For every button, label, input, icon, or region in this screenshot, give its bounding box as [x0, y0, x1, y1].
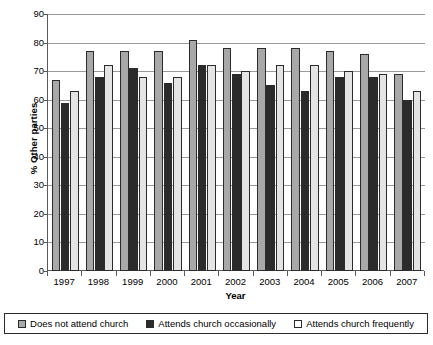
bar — [232, 74, 241, 271]
x-tick-mark — [253, 271, 254, 276]
x-tick-mark — [116, 271, 117, 276]
legend-swatch-icon — [294, 320, 302, 328]
bar — [164, 83, 173, 271]
bar — [70, 91, 79, 271]
bar — [310, 65, 319, 271]
bar — [104, 65, 113, 271]
bar — [266, 85, 275, 271]
bar — [223, 48, 232, 271]
x-tick-mark — [81, 271, 82, 276]
chart-container: % Other parties 199719981999200020012002… — [0, 0, 433, 345]
plot-area — [47, 14, 424, 271]
x-tick-label: 2002 — [218, 276, 252, 287]
bar-group — [117, 14, 151, 271]
bar — [291, 48, 300, 271]
bar — [335, 77, 344, 271]
bar — [241, 71, 250, 271]
x-tick-label: 2007 — [390, 276, 424, 287]
bar-group — [288, 14, 322, 271]
bar — [369, 77, 378, 271]
bar — [301, 91, 310, 271]
x-axis-title: Year — [47, 290, 424, 301]
bar — [198, 65, 207, 271]
x-tick-mark — [321, 271, 322, 276]
y-tick-label: 70 — [14, 66, 44, 76]
x-tick-label: 2003 — [253, 276, 287, 287]
legend-swatch-icon — [18, 320, 26, 328]
bar — [95, 77, 104, 271]
x-tick-label: 2004 — [287, 276, 321, 287]
bar — [257, 48, 266, 271]
x-tick-label: 2006 — [355, 276, 389, 287]
x-tick-mark — [390, 271, 391, 276]
x-tick-label: 1997 — [47, 276, 81, 287]
bar-group — [82, 14, 116, 271]
legend-swatch-icon — [146, 320, 154, 328]
bar — [360, 54, 369, 271]
bar — [61, 103, 70, 271]
bar — [207, 65, 216, 271]
bar-groups — [48, 14, 425, 271]
y-tick-label: 30 — [14, 180, 44, 190]
y-tick-label: 10 — [14, 237, 44, 247]
bar-group — [48, 14, 82, 271]
legend-item: Attends church occasionally — [146, 319, 276, 329]
y-tick-label: 60 — [14, 95, 44, 105]
bar — [413, 91, 422, 271]
x-tick-mark — [355, 271, 356, 276]
y-tick-label: 90 — [14, 9, 44, 19]
bar-group — [219, 14, 253, 271]
x-tick-label: 1998 — [81, 276, 115, 287]
bar-group — [356, 14, 390, 271]
x-tick-mark — [424, 271, 425, 276]
x-tick-label: 2001 — [184, 276, 218, 287]
legend-label: Attends church occasionally — [158, 319, 276, 329]
y-tick-label: 40 — [14, 152, 44, 162]
x-tick-label: 2005 — [321, 276, 355, 287]
bar — [403, 100, 412, 271]
bar — [344, 71, 353, 271]
x-tick-mark — [218, 271, 219, 276]
x-tick-label: 1999 — [116, 276, 150, 287]
bar-group — [391, 14, 425, 271]
bar-group — [185, 14, 219, 271]
x-tick-mark — [47, 271, 48, 276]
bar — [86, 51, 95, 271]
bar — [189, 40, 198, 271]
bar — [120, 51, 129, 271]
x-axis-tick-labels: 1997199819992000200120022003200420052006… — [47, 276, 424, 287]
y-tick-label: 20 — [14, 209, 44, 219]
y-tick-label: 0 — [14, 266, 44, 276]
bar — [154, 51, 163, 271]
bar — [379, 74, 388, 271]
legend-label: Does not attend church — [30, 319, 128, 329]
x-tick-mark — [150, 271, 151, 276]
x-tick-mark — [184, 271, 185, 276]
bar — [129, 68, 138, 271]
x-tick-label: 2000 — [150, 276, 184, 287]
x-tick-mark — [287, 271, 288, 276]
bar — [52, 80, 61, 271]
chart-legend: Does not attend churchAttends church occ… — [4, 313, 428, 334]
bar-group — [322, 14, 356, 271]
legend-label: Attends church frequently — [306, 319, 414, 329]
bar — [173, 77, 182, 271]
bar-group — [254, 14, 288, 271]
bar — [276, 65, 285, 271]
legend-item: Attends church frequently — [294, 319, 414, 329]
legend-item: Does not attend church — [18, 319, 128, 329]
bar — [326, 51, 335, 271]
bar-group — [151, 14, 185, 271]
bar — [394, 74, 403, 271]
y-tick-label: 80 — [14, 38, 44, 48]
bar — [139, 77, 148, 271]
y-tick-label: 50 — [14, 123, 44, 133]
y-axis-title: % Other parties — [28, 59, 39, 219]
